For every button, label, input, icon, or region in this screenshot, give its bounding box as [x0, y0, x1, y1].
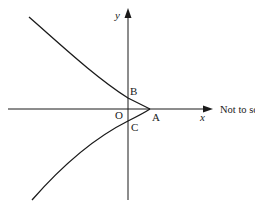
x-axis-label: x: [199, 111, 205, 123]
point-a-label: A: [152, 111, 160, 123]
diagram-canvas: y x B O C A Not to scale: [0, 0, 255, 211]
point-b-label: B: [130, 85, 137, 97]
point-c-label: C: [131, 121, 138, 133]
origin-label: O: [115, 109, 123, 121]
y-axis-label: y: [114, 9, 120, 21]
y-axis-arrow-icon: [125, 8, 132, 18]
not-to-scale-note: Not to scale: [220, 104, 255, 115]
